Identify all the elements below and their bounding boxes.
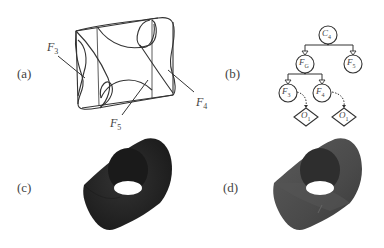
tree-connectors (0, 0, 384, 130)
node-label-f3: F3 (282, 86, 291, 98)
solid-render-dark (0, 125, 200, 248)
panel-b-tree: C4 FG F5 F3 F4 O1 O1 (0, 0, 384, 130)
panel-c-solid-render (0, 125, 200, 248)
node-label-f5: F5 (347, 57, 356, 69)
leaf-label-left: O1 (301, 110, 311, 122)
node-label-root: C4 (322, 28, 331, 40)
leaf-label-right: O1 (339, 110, 349, 122)
node-label-fg: FG (299, 57, 309, 69)
solid-render-shaded (190, 125, 384, 248)
panel-d-solid-render (190, 125, 384, 248)
node-label-f4: F4 (316, 86, 325, 98)
